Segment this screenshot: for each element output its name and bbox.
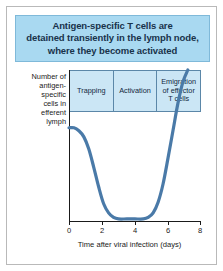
chart-region: Number of antigen- specific cells in eff… (7, 64, 216, 265)
x-tick-label-8: 8 (192, 226, 208, 235)
plot-area: Trapping Activation Emigration of effect… (69, 70, 201, 222)
y-axis-title: Number of antigen- specific cells in eff… (13, 72, 66, 127)
figure-title: Antigen-specific T cells are detained tr… (22, 20, 202, 57)
figure-header-banner: Antigen-specific T cells are detained tr… (15, 15, 210, 62)
x-tick-0 (69, 222, 70, 225)
x-tick-2 (102, 222, 103, 225)
x-tick-4 (135, 222, 136, 225)
series-line-antigen-specific-cells (69, 70, 188, 219)
x-tick-6 (168, 222, 169, 225)
data-curve-svg (69, 70, 201, 222)
x-axis-title: Time after viral infection (days) (47, 240, 212, 249)
figure-frame: Antigen-specific T cells are detained tr… (6, 6, 217, 265)
x-tick-8 (200, 222, 201, 225)
x-tick-label-2: 2 (94, 226, 110, 235)
x-tick-label-4: 4 (127, 226, 143, 235)
x-tick-label-6: 6 (160, 226, 176, 235)
x-tick-label-0: 0 (61, 226, 77, 235)
